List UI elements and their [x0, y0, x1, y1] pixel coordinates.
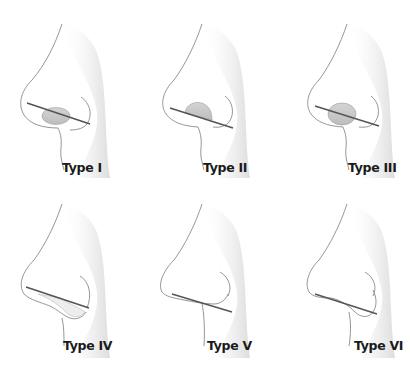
philtrum-outline — [202, 303, 204, 346]
panel-type-5: Type V — [140, 190, 277, 365]
nose-bridge-outline — [163, 24, 204, 170]
philtrum-outline — [349, 312, 351, 346]
type-label: Type III — [348, 160, 397, 175]
panel-type-2: Type II — [140, 0, 277, 182]
panel-type-3: Type III — [275, 0, 410, 182]
panel-type-6: Type VI — [275, 190, 410, 365]
type-label: Type IV — [63, 338, 112, 353]
alar-curve-outline — [80, 276, 90, 308]
type-label: Type VI — [354, 338, 403, 353]
nose-profile-illustration — [275, 0, 410, 182]
panel-type-4: Type IV — [0, 190, 137, 365]
alar-curve-outline — [365, 272, 375, 296]
alar-curve-outline — [220, 272, 230, 296]
type-label: Type V — [207, 338, 252, 353]
type-label: Type I — [62, 160, 102, 175]
panel-type-1: Type I — [0, 0, 137, 182]
reference-line — [172, 294, 232, 312]
alar-curve-outline — [70, 97, 90, 130]
type-label: Type II — [203, 160, 247, 175]
nose-profile-illustration — [140, 0, 277, 182]
reference-line — [315, 294, 377, 314]
nose-profile-illustration — [0, 0, 137, 182]
nose-bridge-outline — [308, 24, 349, 170]
nose-bridge-outline — [21, 24, 64, 170]
